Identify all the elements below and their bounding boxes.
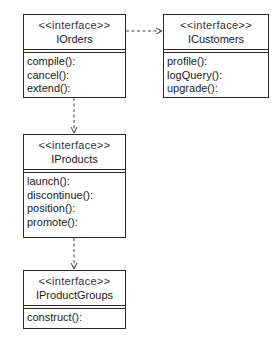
operations-list: launch(): discontinue(): position(): pro… (24, 173, 125, 231)
operation: discontinue(): (27, 189, 122, 203)
class-header: <<interface>> IProductGroups (24, 271, 125, 302)
class-iproducts[interactable]: <<interface>> IProducts launch(): discon… (23, 134, 126, 238)
operation: position(): (27, 202, 122, 216)
operation: promote(): (27, 216, 122, 230)
class-name: IOrders (24, 32, 125, 46)
operation: launch(): (27, 175, 122, 189)
operation: profile(): (167, 55, 265, 69)
operation: logQuery(): (167, 69, 265, 83)
class-name: IProducts (24, 152, 125, 166)
operations-list: construct(): (24, 309, 125, 327)
operation: construct(): (27, 311, 122, 325)
class-header: <<interface>> IProducts (24, 135, 125, 166)
class-name: IProductGroups (24, 288, 125, 302)
stereotype-label: <<interface>> (164, 18, 268, 32)
operation: extend(): (27, 82, 122, 96)
operation: cancel(): (27, 69, 122, 83)
class-header: <<interface>> ICustomers (164, 15, 268, 46)
operation: upgrade(): (167, 82, 265, 96)
operation: compile(): (27, 55, 122, 69)
class-name: ICustomers (164, 32, 268, 46)
stereotype-label: <<interface>> (24, 18, 125, 32)
stereotype-label: <<interface>> (24, 138, 125, 152)
operations-list: profile(): logQuery(): upgrade(): (164, 53, 268, 98)
stereotype-label: <<interface>> (24, 274, 125, 288)
class-header: <<interface>> IOrders (24, 15, 125, 46)
class-iorders[interactable]: <<interface>> IOrders compile(): cancel(… (23, 14, 126, 98)
operations-list: compile(): cancel(): extend(): (24, 53, 125, 98)
class-iproductgroups[interactable]: <<interface>> IProductGroups construct()… (23, 270, 126, 329)
class-icustomers[interactable]: <<interface>> ICustomers profile(): logQ… (163, 14, 269, 98)
